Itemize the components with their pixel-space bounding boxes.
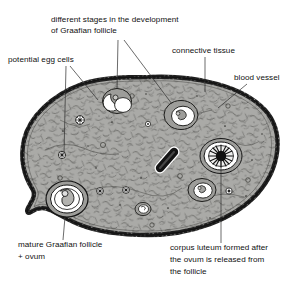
ovary-diagram-figure: different stages in the development of G…	[0, 0, 301, 285]
developing-follicle-2	[164, 101, 198, 130]
primordial-follicle	[145, 121, 150, 126]
label-blood-vessel-line1: blood vessel	[234, 73, 280, 82]
primordial-follicle	[76, 116, 85, 125]
label-potential-egg-cells-line1: potential egg cells	[8, 55, 74, 64]
primordial-follicle	[58, 151, 65, 158]
label-connective-tissue-line1: connective tissue	[172, 46, 235, 55]
developing-follicle-4	[135, 202, 151, 215]
label-connective-tissue: connective tissue	[172, 46, 235, 55]
label-mature-follicle-line1: mature Graafian follicle	[18, 240, 103, 249]
primordial-follicle	[123, 187, 130, 194]
label-potential-egg-cells: potential egg cells	[8, 55, 74, 64]
label-corpus-luteum-line2: the ovum is released from	[170, 255, 265, 264]
ovum	[62, 191, 68, 197]
developing-follicle-1	[103, 89, 132, 114]
developing-follicle-3	[188, 179, 216, 202]
primordial-follicle	[226, 188, 232, 194]
primordial-follicle	[97, 188, 104, 195]
label-development-stages-line2: of Graafian follicle	[51, 26, 117, 35]
label-corpus-luteum-line3: the follicle	[170, 267, 207, 276]
label-corpus-luteum-line1: corpus luteum formed after	[170, 243, 268, 252]
label-development-stages-line1: different stages in the development	[51, 15, 179, 24]
label-mature-follicle-line2: + ovum	[18, 252, 45, 261]
ovum-nucleus	[113, 95, 118, 100]
label-blood-vessel: blood vessel	[234, 73, 280, 82]
mature-graafian-follicle	[46, 181, 88, 217]
